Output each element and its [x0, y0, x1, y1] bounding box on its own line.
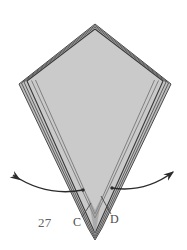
vertex-label-c: C	[73, 215, 81, 230]
arrow-left-anchor	[81, 188, 84, 191]
folded-kite-diagram	[0, 0, 187, 250]
vertex-label-d: D	[110, 212, 119, 227]
figure-number-label: 27	[38, 215, 52, 231]
figure-canvas: 27 C D	[0, 0, 187, 250]
arrow-right-anchor	[110, 186, 113, 189]
